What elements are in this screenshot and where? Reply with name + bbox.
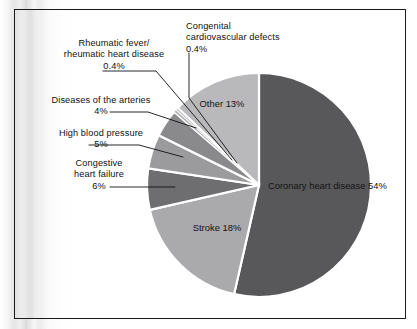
callout-chf-value: 6% bbox=[44, 181, 154, 192]
slice-stroke-value: 18% bbox=[222, 222, 241, 233]
callout-rheumatic-line1: Rheumatic fever/ bbox=[44, 38, 184, 49]
slice-label-coronary-heart-disease: Coronary heart disease 54% bbox=[268, 180, 372, 192]
callout-hbp-line1: High blood pressure bbox=[34, 128, 168, 139]
callout-chf-line2: heart failure bbox=[44, 169, 154, 180]
slice-other-name: Other bbox=[200, 98, 223, 109]
callout-rheumatic-value: 0.4% bbox=[44, 61, 184, 72]
callout-arteries-value: 4% bbox=[26, 106, 176, 117]
callout-hbp-value: 5% bbox=[34, 139, 168, 150]
callout-label-rheumatic: Rheumatic fever/ rheumatic heart disease… bbox=[44, 38, 184, 72]
callout-label-arteries: Diseases of the arteries 4% bbox=[26, 95, 176, 118]
slice-label-stroke: Stroke 18% bbox=[186, 222, 248, 234]
callout-congenital-value: 0.4% bbox=[186, 44, 316, 55]
callout-arteries-line1: Diseases of the arteries bbox=[26, 95, 176, 106]
slice-other-value: 13% bbox=[226, 98, 245, 109]
slice-coronary-value: 54% bbox=[368, 180, 387, 191]
callout-label-congestive-heart-failure: Congestive heart failure 6% bbox=[44, 158, 154, 192]
slice-coronary-line2: heart disease bbox=[309, 180, 365, 191]
callout-rheumatic-line2: rheumatic heart disease bbox=[44, 49, 184, 60]
slice-coronary-line1: Coronary bbox=[268, 180, 307, 191]
figure-page: Rheumatic fever/ rheumatic heart disease… bbox=[0, 0, 417, 329]
slice-stroke-name: Stroke bbox=[193, 222, 220, 233]
callout-congenital-line1: Congenital bbox=[186, 21, 316, 32]
callout-chf-line1: Congestive bbox=[44, 158, 154, 169]
slice-label-other: Other 13% bbox=[190, 98, 254, 110]
callout-congenital-line2: cardiovascular defects bbox=[186, 32, 316, 43]
callout-label-high-blood-pressure: High blood pressure 5% bbox=[34, 128, 168, 151]
callout-label-congenital: Congenital cardiovascular defects 0.4% bbox=[186, 21, 316, 55]
